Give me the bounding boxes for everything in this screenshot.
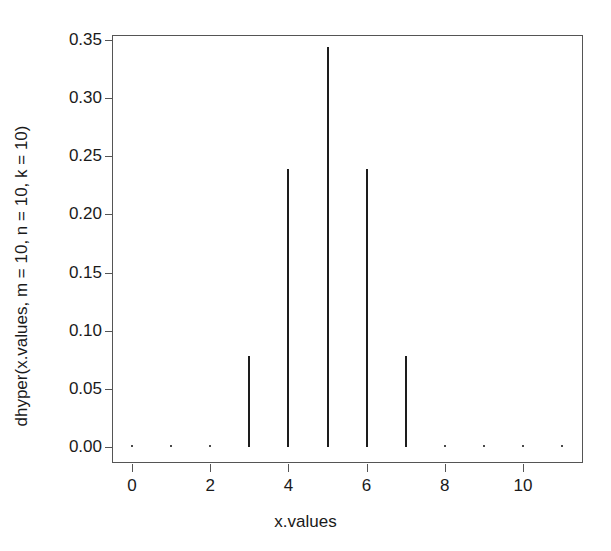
x-tick-label: 2 [190,477,230,494]
x-tick-label: 0 [112,477,152,494]
y-tick-mark [105,98,112,99]
y-tick-label: 0.30 [56,89,102,106]
y-tick-label: 0.15 [56,264,102,281]
x-tick-label: 10 [503,477,543,494]
x-tick-label: 4 [268,477,308,494]
x-tick-mark [288,464,289,472]
y-tick-label: 0.35 [56,31,102,48]
x-tick-mark [445,464,446,472]
y-tick-label: 0.10 [56,322,102,339]
y-tick-mark [105,389,112,390]
x-tick-mark [523,464,524,472]
chart-canvas: dhyper(x.values, m = 10, n = 10, k = 10)… [0,0,611,551]
y-axis-title-container: dhyper(x.values, m = 10, n = 10, k = 10) [0,0,44,551]
y-tick-mark [105,214,112,215]
y-tick-label: 0.25 [56,147,102,164]
x-tick-mark [367,464,368,472]
x-tick-label: 8 [425,477,465,494]
x-tick-mark [210,464,211,472]
y-tick-mark [105,156,112,157]
plot-frame [112,35,583,463]
x-tick-label: 6 [347,477,387,494]
y-axis-title: dhyper(x.values, m = 10, n = 10, k = 10) [12,125,32,426]
y-tick-label: 0.20 [56,205,102,222]
y-tick-label: 0.05 [56,380,102,397]
y-tick-mark [105,40,112,41]
x-axis-title: x.values [0,512,611,532]
x-tick-mark [132,464,133,472]
y-tick-label: 0.00 [56,438,102,455]
y-tick-mark [105,447,112,448]
y-tick-mark [105,273,112,274]
y-tick-mark [105,331,112,332]
